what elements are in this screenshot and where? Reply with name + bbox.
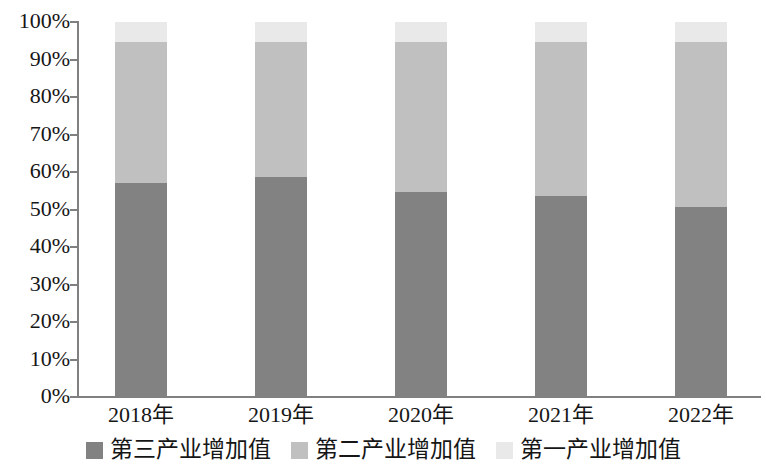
legend-label: 第一产业增加值 bbox=[520, 437, 681, 463]
bar-segment-tertiary[interactable] bbox=[115, 183, 167, 398]
legend-label: 第二产业增加值 bbox=[315, 437, 476, 463]
y-axis-tick-10pct bbox=[70, 359, 78, 361]
legend-swatch-icon bbox=[86, 442, 103, 459]
bar-segment-primary[interactable] bbox=[535, 22, 587, 42]
y-axis-tick-90pct bbox=[70, 59, 78, 61]
y-axis-tick-label: 50% bbox=[2, 198, 70, 220]
bar-segment-tertiary[interactable] bbox=[255, 177, 307, 398]
bar-segment-secondary[interactable] bbox=[675, 42, 727, 207]
y-axis-label-wrap: 80% bbox=[0, 85, 70, 107]
bar-segment-tertiary[interactable] bbox=[675, 207, 727, 397]
bar-group[interactable] bbox=[395, 22, 447, 397]
legend-label: 第三产业增加值 bbox=[110, 437, 271, 463]
legend-item[interactable]: 第三产业增加值 bbox=[86, 437, 271, 463]
y-axis-tick-70pct bbox=[70, 134, 78, 136]
y-axis-tick-label: 30% bbox=[2, 273, 70, 295]
y-axis-label-wrap: 60% bbox=[0, 160, 70, 182]
bar-segment-secondary[interactable] bbox=[535, 42, 587, 197]
y-axis-label-wrap: 90% bbox=[0, 48, 70, 70]
legend-item[interactable]: 第一产业增加值 bbox=[496, 437, 681, 463]
bar-segment-primary[interactable] bbox=[395, 22, 447, 42]
y-axis-label-wrap: 10% bbox=[0, 348, 70, 370]
y-axis-label-wrap: 20% bbox=[0, 310, 70, 332]
y-axis-tick-label: 70% bbox=[2, 123, 70, 145]
bar-group[interactable] bbox=[115, 22, 167, 397]
y-axis-tick-50pct bbox=[70, 209, 78, 211]
y-axis-tick-label: 90% bbox=[2, 48, 70, 70]
legend-swatch-icon bbox=[291, 442, 308, 459]
x-axis-tick-label: 2022年 bbox=[631, 402, 766, 428]
y-axis-tick-label: 40% bbox=[2, 235, 70, 257]
y-axis-tick-label: 80% bbox=[2, 85, 70, 107]
y-axis-tick-label: 100% bbox=[2, 10, 70, 32]
y-axis-tick-label: 20% bbox=[2, 310, 70, 332]
y-axis-tick-label: 10% bbox=[2, 348, 70, 370]
bar-group[interactable] bbox=[535, 22, 587, 397]
bar-segment-tertiary[interactable] bbox=[395, 192, 447, 397]
bar-group[interactable] bbox=[255, 22, 307, 397]
y-axis-tick-60pct bbox=[70, 171, 78, 173]
legend-swatch-icon bbox=[496, 442, 513, 459]
x-axis-tick-label: 2020年 bbox=[351, 402, 491, 428]
y-axis-label-wrap: 30% bbox=[0, 273, 70, 295]
y-axis-label-wrap: 50% bbox=[0, 198, 70, 220]
bar-group[interactable] bbox=[675, 22, 727, 397]
y-axis-tick-0pct bbox=[70, 396, 78, 398]
y-axis-tick-20pct bbox=[70, 321, 78, 323]
stacked-bar-chart: 100%90%80%70%60%50%40%30%20%10%0% 2018年2… bbox=[0, 0, 766, 464]
bar-segment-secondary[interactable] bbox=[255, 42, 307, 177]
bar-segment-primary[interactable] bbox=[675, 22, 727, 42]
plot-area bbox=[78, 22, 760, 397]
bar-segment-tertiary[interactable] bbox=[535, 196, 587, 397]
legend-item[interactable]: 第二产业增加值 bbox=[291, 437, 476, 463]
y-axis-tick-40pct bbox=[70, 246, 78, 248]
bar-segment-secondary[interactable] bbox=[115, 42, 167, 183]
x-axis-tick-label: 2018年 bbox=[71, 402, 211, 428]
bar-segment-primary[interactable] bbox=[255, 22, 307, 42]
y-axis-tick-30pct bbox=[70, 284, 78, 286]
y-axis-tick-label: 0% bbox=[2, 385, 70, 407]
chart-legend: 第三产业增加值第二产业增加值第一产业增加值 bbox=[0, 436, 766, 464]
bar-segment-primary[interactable] bbox=[115, 22, 167, 42]
x-axis-tick-label: 2019年 bbox=[211, 402, 351, 428]
y-axis-label-wrap: 0% bbox=[0, 385, 70, 407]
y-axis-tick-100pct bbox=[70, 21, 78, 23]
y-axis-label-wrap: 100% bbox=[0, 10, 70, 32]
y-axis-tick-label: 60% bbox=[2, 160, 70, 182]
y-axis-label-wrap: 40% bbox=[0, 235, 70, 257]
x-axis-tick-label: 2021年 bbox=[491, 402, 631, 428]
y-axis-label-wrap: 70% bbox=[0, 123, 70, 145]
bar-segment-secondary[interactable] bbox=[395, 42, 447, 192]
y-axis-tick-80pct bbox=[70, 96, 78, 98]
